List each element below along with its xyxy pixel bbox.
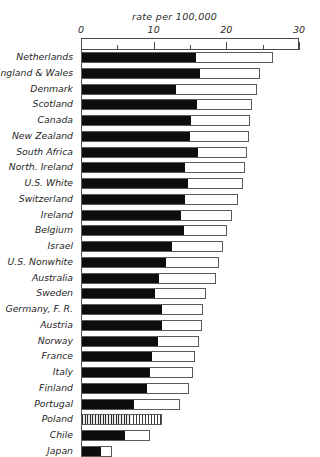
bar-row-label: Denmark	[0, 83, 77, 95]
bar-row-label: Belgium	[0, 224, 77, 236]
bar-row: Austria	[0, 320, 320, 332]
bar-dark-segment	[82, 53, 196, 62]
bar-row-label: Germany, F. R.	[0, 303, 77, 315]
bar-dark-segment	[82, 226, 184, 235]
bar-total-segment	[81, 446, 112, 457]
bar-dark-segment	[82, 211, 181, 220]
bar-total-segment	[81, 99, 252, 110]
bar-dark-segment	[82, 447, 101, 456]
bar-row: Sweden	[0, 288, 320, 300]
bar-dark-segment	[82, 305, 162, 314]
bar-total-segment	[81, 430, 150, 441]
bar-total-segment	[81, 304, 203, 315]
bar-dark-segment	[82, 163, 185, 172]
bar-total-segment	[81, 225, 227, 236]
bar-dark-segment	[82, 274, 159, 283]
bar-total-segment	[81, 115, 250, 126]
bar-row: U.S. Nonwhite	[0, 257, 320, 269]
bar-total-segment	[81, 320, 202, 331]
bar-total-segment	[81, 147, 247, 158]
bar-row: Italy	[0, 367, 320, 379]
bar-dark-segment	[82, 148, 198, 157]
bar-row-label: Norway	[0, 335, 77, 347]
bar-row-label: Australia	[0, 272, 77, 284]
bar-row-label: Israel	[0, 240, 77, 252]
bar-row-label: Japan	[0, 445, 77, 457]
bar-dark-segment	[82, 415, 131, 424]
bar-total-segment	[81, 84, 257, 95]
bar-row: France	[0, 351, 320, 363]
bar-row: Scotland	[0, 99, 320, 111]
bar-total-segment	[81, 178, 243, 189]
bar-row: Finland	[0, 383, 320, 395]
bar-row-label: Netherlands	[0, 51, 77, 63]
bar-total-segment	[81, 210, 232, 221]
bar-dark-segment	[82, 368, 150, 377]
bar-dark-segment	[82, 289, 155, 298]
bar-total-segment	[81, 351, 195, 362]
bar-row-label: Italy	[0, 366, 77, 378]
bar-row: Israel	[0, 241, 320, 253]
bar-dark-segment	[82, 116, 191, 125]
bar-rows: NetherlandsEngland & WalesDenmarkScotlan…	[0, 0, 320, 457]
bar-total-segment	[81, 367, 193, 378]
bar-total-segment	[81, 162, 245, 173]
bar-total-segment	[81, 131, 249, 142]
bar-row-label: Canada	[0, 114, 77, 126]
chart-container: rate per 100,000 0102030 NetherlandsEngl…	[0, 0, 320, 457]
bar-total-segment	[81, 336, 199, 347]
bar-row-label: Switzerland	[0, 193, 77, 205]
bar-dark-segment	[82, 352, 152, 361]
bar-dark-segment	[82, 384, 147, 393]
bar-row: South Africa	[0, 147, 320, 159]
bar-dark-segment	[82, 100, 197, 109]
bar-total-segment	[81, 194, 238, 205]
bar-row: Switzerland	[0, 194, 320, 206]
bar-row-label: England & Wales	[0, 67, 77, 79]
bar-row: England & Wales	[0, 68, 320, 80]
bar-row: Australia	[0, 273, 320, 285]
bar-row: New Zealand	[0, 131, 320, 143]
bar-row: Ireland	[0, 210, 320, 222]
bar-dark-segment	[82, 337, 158, 346]
bar-total-segment	[81, 414, 162, 425]
bar-dark-segment	[82, 321, 162, 330]
bar-row-label: France	[0, 350, 77, 362]
bar-row: Chile	[0, 430, 320, 442]
bar-row: Japan	[0, 446, 320, 457]
bar-dark-segment	[82, 258, 166, 267]
bar-dark-segment	[82, 400, 134, 409]
bar-dark-segment	[82, 85, 176, 94]
bar-row-label: Finland	[0, 382, 77, 394]
bar-dark-segment	[82, 179, 188, 188]
bar-row: Poland	[0, 414, 320, 426]
bar-row-label: Poland	[0, 413, 77, 425]
bar-row: Germany, F. R.	[0, 304, 320, 316]
bar-total-segment	[81, 383, 189, 394]
bar-total-segment	[81, 52, 273, 63]
bar-row-label: U.S. Nonwhite	[0, 256, 77, 268]
bar-dark-segment	[82, 242, 172, 251]
bar-total-segment	[81, 273, 216, 284]
bar-dark-segment	[82, 69, 200, 78]
bar-row: Norway	[0, 336, 320, 348]
bar-row: Canada	[0, 115, 320, 127]
bar-dark-segment	[82, 195, 185, 204]
bar-dark-segment	[82, 431, 125, 440]
bar-total-segment	[81, 241, 223, 252]
bar-row: North. Ireland	[0, 162, 320, 174]
bar-dark-segment	[82, 132, 190, 141]
bar-row: Belgium	[0, 225, 320, 237]
bar-total-segment	[81, 288, 206, 299]
bar-row-label: South Africa	[0, 146, 77, 158]
bar-row: U.S. White	[0, 178, 320, 190]
bar-row-label: New Zealand	[0, 130, 77, 142]
bar-row-label: Austria	[0, 319, 77, 331]
bar-row: Denmark	[0, 84, 320, 96]
bar-total-segment	[81, 68, 260, 79]
bar-row-label: Ireland	[0, 209, 77, 221]
bar-row-label: U.S. White	[0, 177, 77, 189]
bar-row: Netherlands	[0, 52, 320, 64]
bar-row-label: Portugal	[0, 398, 77, 410]
bar-row-label: Sweden	[0, 287, 77, 299]
